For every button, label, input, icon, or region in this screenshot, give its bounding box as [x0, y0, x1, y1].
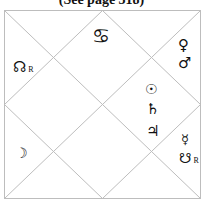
venus-icon: ♀: [178, 38, 189, 53]
rahu-icon: ☊R: [13, 60, 34, 75]
retrograde-marker: R: [193, 156, 198, 165]
mars-icon: ♂: [178, 56, 191, 71]
jupiter-icon: ♃: [146, 124, 159, 139]
ketu-icon: ☋R: [179, 151, 199, 165]
mercury-icon: ☿: [181, 133, 189, 146]
saturn-icon: ♄: [146, 102, 159, 117]
sun-icon: ☉: [145, 82, 158, 96]
cancer-sign-icon: ♋: [92, 26, 110, 46]
retrograde-marker: R: [28, 65, 33, 74]
moon-icon: ☽: [15, 146, 28, 160]
